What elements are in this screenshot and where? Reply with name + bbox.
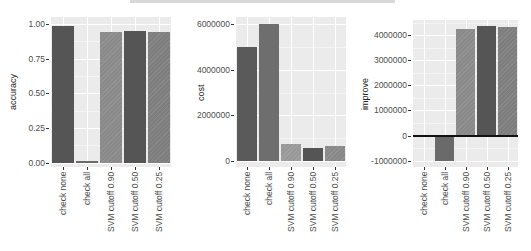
y-tick-label: 1.00 (28, 19, 45, 29)
plot-area-accuracy (51, 17, 171, 167)
y-tick-mark (46, 93, 49, 94)
y-tick-mark (231, 161, 234, 162)
y-axis-title: cost (196, 84, 206, 101)
x-tick-label: SVM cutoff 0.90 (461, 172, 471, 232)
bar-svm-cutoff-0-50 (477, 26, 496, 136)
y-tick-mark (408, 35, 411, 36)
x-tick-mark (487, 167, 488, 170)
top-divider (130, 0, 395, 3)
bar-check-all (435, 136, 454, 161)
y-tick-label: 1000000 (374, 105, 407, 115)
bar-check-all (76, 161, 98, 163)
bar-svm-cutoff-0-90 (100, 32, 122, 163)
y-tick-mark (408, 110, 411, 111)
x-tick-label: SVM cutoff 0.50 (482, 172, 492, 232)
bar-svm-cutoff-0-25 (498, 27, 517, 136)
x-tick-label: SVM cutoff 0.25 (330, 172, 340, 232)
plot-area-improve (413, 20, 518, 167)
x-tick-label: SVM cutoff 0.90 (106, 172, 116, 232)
x-tick-mark (313, 167, 314, 170)
x-tick-mark (335, 167, 336, 170)
y-tick-mark (408, 161, 411, 162)
y-tick-mark (231, 70, 234, 71)
x-tick-mark (135, 167, 136, 170)
x-tick-label: check all (440, 172, 450, 205)
zero-line (413, 135, 518, 137)
bar-check-none (237, 47, 257, 162)
x-tick-label: SVM cutoff 0.25 (503, 172, 513, 232)
bar-check-none (52, 26, 74, 163)
y-tick-mark (46, 59, 49, 60)
y-tick-label: -1000000 (371, 156, 407, 166)
y-tick-label: 0 (225, 156, 230, 166)
x-tick-label: check all (82, 172, 92, 205)
y-axis-title: accuracy (8, 74, 18, 110)
y-tick-mark (231, 115, 234, 116)
gridline-vertical (313, 17, 314, 167)
y-tick-mark (231, 24, 234, 25)
y-tick-mark (408, 85, 411, 86)
bar-svm-cutoff-0-90 (281, 144, 301, 161)
x-tick-label: check none (242, 172, 252, 215)
y-tick-label: 0.50 (28, 88, 45, 98)
x-tick-mark (111, 167, 112, 170)
y-tick-mark (46, 128, 49, 129)
y-tick-label: 0 (402, 131, 407, 141)
y-tick-label: 4000000 (374, 30, 407, 40)
y-tick-label: 3000000 (374, 55, 407, 65)
bar-svm-cutoff-0-25 (325, 146, 345, 161)
x-tick-label: check none (58, 172, 68, 215)
x-tick-mark (466, 167, 467, 170)
bar-check-all (259, 24, 279, 161)
bar-svm-cutoff-0-90 (456, 29, 475, 136)
x-tick-label: SVM cutoff 0.50 (308, 172, 318, 232)
x-tick-mark (247, 167, 248, 170)
y-tick-label: 0.75 (28, 54, 45, 64)
x-tick-label: SVM cutoff 0.25 (154, 172, 164, 232)
gridline-vertical (424, 20, 425, 167)
y-tick-mark (408, 136, 411, 137)
x-tick-mark (424, 167, 425, 170)
x-tick-mark (269, 167, 270, 170)
plot-area-cost (236, 17, 346, 167)
x-tick-mark (445, 167, 446, 170)
y-tick-mark (46, 24, 49, 25)
y-tick-label: 2000000 (374, 80, 407, 90)
y-tick-label: 2000000 (197, 110, 230, 120)
y-tick-label: 4000000 (197, 65, 230, 75)
x-tick-mark (63, 167, 64, 170)
bar-svm-cutoff-0-50 (303, 148, 323, 162)
x-tick-mark (159, 167, 160, 170)
gridline-vertical (335, 17, 336, 167)
x-tick-mark (508, 167, 509, 170)
y-tick-label: 0.25 (28, 123, 45, 133)
y-axis-title: improve (360, 77, 370, 109)
x-tick-label: SVM cutoff 0.90 (286, 172, 296, 232)
bar-svm-cutoff-0-25 (148, 32, 170, 163)
x-tick-label: check all (264, 172, 274, 205)
x-tick-label: SVM cutoff 0.50 (130, 172, 140, 232)
y-tick-mark (408, 60, 411, 61)
y-tick-label: 6000000 (197, 19, 230, 29)
y-tick-label: 0.00 (28, 158, 45, 168)
x-tick-mark (87, 167, 88, 170)
bar-svm-cutoff-0-50 (124, 31, 146, 163)
x-tick-mark (291, 167, 292, 170)
x-tick-label: check none (419, 172, 429, 215)
y-tick-mark (46, 163, 49, 164)
gridline-vertical (87, 17, 88, 167)
